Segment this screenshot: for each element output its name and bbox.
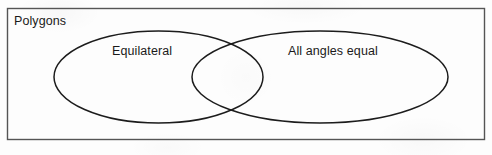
venn-diagram-figure: Polygons Equilateral All angles equal xyxy=(0,0,492,155)
universe-rectangle xyxy=(8,9,485,140)
set-label-equilateral: Equilateral xyxy=(112,44,172,58)
universe-label: Polygons xyxy=(14,14,66,28)
set-label-all-angles-equal: All angles equal xyxy=(288,44,378,58)
venn-diagram-canvas xyxy=(0,0,492,155)
